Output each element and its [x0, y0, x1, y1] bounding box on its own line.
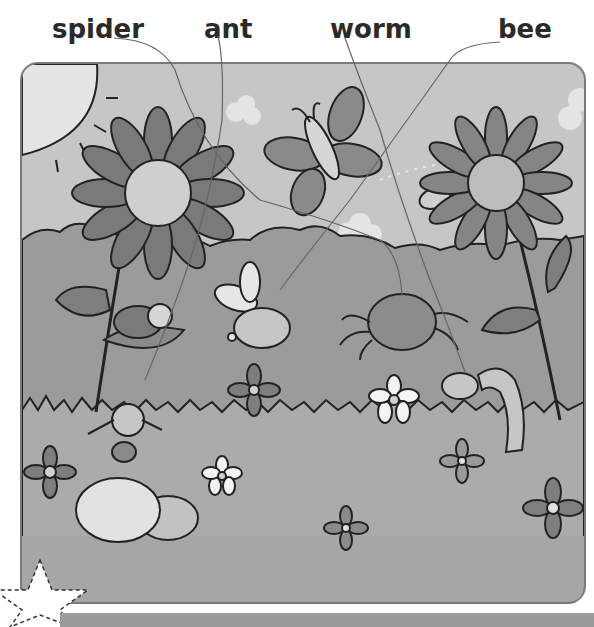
page-bottom-band [60, 613, 594, 627]
garden-scene [0, 0, 594, 627]
